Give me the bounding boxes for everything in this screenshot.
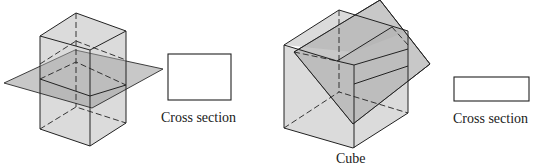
prism-cross-section-label: Cross section bbox=[161, 111, 236, 125]
cube-figure bbox=[284, 0, 430, 148]
prism-figure bbox=[4, 13, 163, 146]
cube-cross-section-label: Cross section bbox=[453, 112, 528, 126]
diagram-canvas bbox=[0, 0, 537, 168]
prism-cross-section-rectangle bbox=[168, 54, 231, 100]
cube-label: Cube bbox=[336, 152, 366, 166]
cube-cross-section-rectangle bbox=[454, 77, 529, 101]
